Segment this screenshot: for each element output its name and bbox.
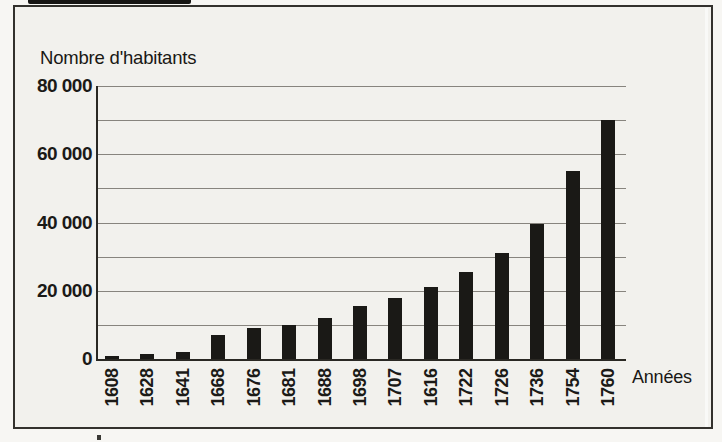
bar-1736 [530,224,544,359]
bar-1608 [105,356,119,359]
scan-fold-line [705,8,708,427]
bar-1616 [424,287,438,359]
bar-1641 [176,352,190,359]
gridline-70000 [98,120,626,121]
bar-1628 [140,354,154,359]
bar-1760 [601,120,615,359]
bar-1688 [318,318,332,359]
gridline-20000 [98,291,626,292]
chart-title: Nombre d'habitants [40,48,196,68]
bar-1668 [211,335,225,359]
y-tick-label-0: 0 [22,348,92,370]
bar-1676 [247,328,261,359]
gridline-30000 [98,257,626,258]
bar-1722 [459,272,473,359]
bar-1754 [566,171,580,359]
bar-1726 [495,253,509,359]
y-tick-label-40000: 40 000 [22,212,92,234]
x-axis-title: Années [632,367,692,388]
scanned-page: Nombre d'habitants 020 00040 00060 00080… [0,0,722,442]
y-tick-label-20000: 20 000 [22,280,92,302]
gridline-80000 [98,86,626,87]
bar-1681 [282,325,296,359]
bar-1698 [353,306,367,359]
gridline-50000 [98,188,626,189]
x-tick-label-1760-14: 1760 [585,362,631,412]
scan-artifact-dot [97,435,101,440]
plot-area [96,86,626,361]
gridline-40000 [98,223,626,224]
y-axis-line [96,86,98,361]
y-tick-label-80000: 80 000 [22,75,92,97]
y-tick-label-60000: 60 000 [22,143,92,165]
bar-1707 [388,298,402,359]
gridline-60000 [98,154,626,155]
scan-artifact-top-edge [28,0,191,4]
x-axis-line [96,359,626,361]
